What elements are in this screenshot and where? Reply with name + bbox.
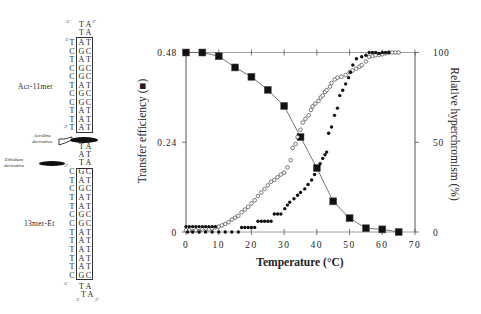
- open-circle-marker: [317, 99, 321, 103]
- filled-circle-marker: [333, 114, 336, 117]
- filled-circle-marker: [283, 207, 286, 210]
- filled-circle-marker: [197, 230, 200, 233]
- filled-circle-marker: [292, 197, 295, 200]
- filled-circle-marker: [288, 201, 291, 204]
- square-marker: [199, 49, 206, 56]
- square-marker: [379, 226, 386, 233]
- open-circle-marker: [276, 175, 280, 179]
- filled-circle-marker: [321, 157, 324, 160]
- open-circle-marker: [304, 117, 308, 121]
- open-circle-marker: [328, 85, 332, 89]
- square-marker: [264, 86, 271, 93]
- filled-circle-marker: [296, 194, 299, 197]
- series-layer: [183, 49, 403, 236]
- open-circle-marker: [259, 191, 263, 195]
- square-marker: [346, 215, 353, 222]
- open-circle-marker: [253, 198, 257, 202]
- open-circle-marker: [330, 81, 334, 85]
- open-circle-marker: [344, 73, 348, 77]
- filled-circle-marker: [276, 212, 279, 215]
- filled-circle-marker: [351, 63, 354, 66]
- x-tick-label: 30: [278, 240, 291, 250]
- filled-circle-marker: [368, 51, 371, 54]
- filled-circle-marker: [336, 106, 339, 109]
- series-open-circle: [184, 51, 400, 233]
- open-circle-marker: [364, 60, 368, 64]
- left-y-tick-label: 0.24: [157, 138, 177, 148]
- filled-circle-marker: [381, 51, 384, 54]
- filled-circle-marker: [306, 183, 309, 186]
- open-circle-marker: [266, 184, 270, 188]
- square-marker: [330, 198, 337, 205]
- open-circle-marker: [243, 208, 247, 212]
- open-circle-marker: [256, 194, 260, 198]
- filled-circle-marker: [355, 57, 358, 60]
- filled-circle-marker: [387, 51, 390, 54]
- filled-circle-marker: [201, 225, 204, 228]
- filled-circle-marker: [316, 166, 319, 169]
- filled-circle-marker: [266, 220, 269, 223]
- open-circle-marker: [360, 63, 364, 67]
- filled-circle-marker: [286, 203, 289, 206]
- x-axis-title: Temperature (°C): [256, 256, 343, 269]
- square-marker: [248, 73, 255, 80]
- filled-circle-marker: [273, 212, 276, 215]
- square-marker: [395, 229, 402, 236]
- right-y-tick-label: 100: [433, 48, 450, 58]
- filled-circle-marker: [377, 52, 380, 55]
- filled-circle-marker: [250, 226, 253, 229]
- x-tick-label: 40: [311, 240, 324, 250]
- square-marker: [232, 64, 239, 71]
- open-circle-marker: [294, 142, 298, 146]
- open-circle-marker: [289, 158, 293, 162]
- filled-circle-marker: [224, 230, 227, 233]
- square-marker: [183, 49, 190, 56]
- filled-circle-marker: [186, 230, 189, 233]
- filled-circle-marker: [374, 51, 377, 54]
- filled-circle-marker: [263, 220, 266, 223]
- filled-circle-marker: [214, 225, 217, 228]
- square-marker: [281, 102, 288, 109]
- filled-circle-marker: [210, 230, 213, 233]
- open-circle-marker: [336, 76, 340, 80]
- filled-circle-marker: [207, 225, 210, 228]
- open-circle-marker: [227, 220, 231, 224]
- open-circle-marker: [301, 121, 305, 125]
- open-circle-marker: [291, 146, 295, 150]
- open-circle-marker: [263, 187, 267, 191]
- right-y-tick-label: 50: [433, 138, 444, 148]
- x-tick-label: 70: [409, 240, 422, 250]
- filled-circle-marker: [330, 125, 333, 128]
- filled-circle-marker: [279, 212, 282, 215]
- open-circle-marker: [299, 128, 303, 132]
- open-circle-marker: [286, 166, 290, 170]
- filled-circle-marker: [217, 230, 220, 233]
- open-circle-marker: [309, 108, 313, 112]
- filled-circle-marker: [384, 51, 387, 54]
- filled-circle-marker: [299, 191, 302, 194]
- filled-circle-marker: [256, 220, 259, 223]
- filled-circle-marker: [246, 226, 249, 229]
- open-circle-marker: [237, 214, 241, 218]
- filled-circle-marker: [230, 230, 233, 233]
- filled-circle-marker: [338, 94, 341, 97]
- open-circle-marker: [240, 210, 244, 214]
- transfer-efficiency-line: [186, 53, 399, 233]
- filled-circle-marker: [204, 230, 207, 233]
- filled-circle-marker: [349, 71, 352, 74]
- filled-circle-marker: [269, 220, 272, 223]
- filled-circle-marker: [184, 225, 187, 228]
- open-circle-marker: [246, 205, 250, 209]
- series-filled-circle: [184, 51, 390, 234]
- filled-circle-marker: [313, 173, 316, 176]
- axis-ticks: 01020304050607000.240.48050100: [157, 48, 449, 250]
- x-tick-label: 60: [376, 240, 389, 250]
- melting-chart: 01020304050607000.240.48050100 Temperatu…: [0, 0, 481, 314]
- filled-circle-marker: [237, 230, 240, 233]
- open-circle-marker: [325, 88, 329, 92]
- open-circle-marker: [250, 201, 254, 205]
- filled-circle-marker: [253, 226, 256, 229]
- x-tick-label: 10: [212, 240, 225, 250]
- filled-circle-marker: [327, 132, 330, 135]
- filled-circle-marker: [188, 225, 191, 228]
